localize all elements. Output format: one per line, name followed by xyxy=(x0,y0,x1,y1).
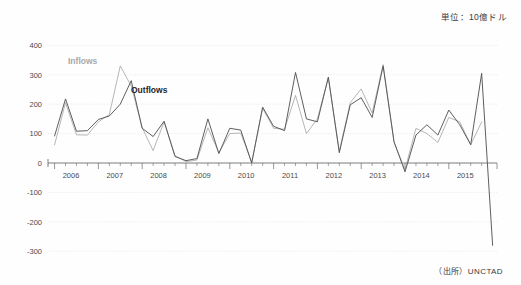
y-axis-tick-label: 0 xyxy=(38,159,42,168)
x-axis-tick-label: 2009 xyxy=(194,171,211,180)
x-axis-tick-label: 2012 xyxy=(325,171,342,180)
x-axis-tick-label: 2011 xyxy=(282,171,298,180)
source-note: （出所）UNCTAD xyxy=(434,265,503,276)
x-axis-tick-label: 2010 xyxy=(238,171,255,180)
y-axis-tick-label: 100 xyxy=(29,129,42,138)
line-chart: 4003002001000-100-200-300200620072008200… xyxy=(0,0,521,285)
series-label-outflows: Outflows xyxy=(131,85,168,95)
chart-page: 単位：10億ドル 4003002001000-100-200-300200620… xyxy=(0,0,521,285)
y-axis-tick-label: -200 xyxy=(27,218,42,227)
y-axis-tick-label: 300 xyxy=(29,71,42,80)
y-axis-tick-label: -100 xyxy=(27,188,42,197)
x-axis-tick-label: 2013 xyxy=(369,171,386,180)
y-axis-tick-label: 200 xyxy=(29,100,42,109)
x-axis-tick-label: 2007 xyxy=(106,171,123,180)
y-axis-tick-label: -300 xyxy=(27,247,42,256)
chart-plot-area: 4003002001000-100-200-300200620072008200… xyxy=(0,0,521,285)
x-axis-tick-label: 2015 xyxy=(457,171,474,180)
x-axis-tick-label: 2008 xyxy=(150,171,167,180)
x-axis-tick-label: 2006 xyxy=(63,171,80,180)
series-label-inflows: Inflows xyxy=(68,56,98,66)
x-axis-tick-label: 2014 xyxy=(413,171,430,180)
series-line-outflows xyxy=(55,66,493,245)
y-axis-tick-label: 400 xyxy=(29,41,42,50)
